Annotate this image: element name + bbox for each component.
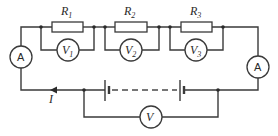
voltmeter-battery: V (82, 88, 220, 128)
bottom-wires: I (21, 68, 258, 106)
resistor-r2: R2 (115, 4, 147, 32)
ammeter-right: A (247, 56, 269, 78)
resistor-r3: R3 (181, 4, 212, 32)
svg-text:A: A (254, 61, 262, 73)
svg-text:A: A (17, 51, 25, 63)
battery (105, 80, 184, 101)
resistor-r1: R1 (52, 4, 83, 32)
circuit-diagram: R1 V1 R2 V2 R3 V3 A (0, 0, 278, 136)
ammeter-left: A (10, 46, 32, 68)
current-label: I (48, 92, 54, 106)
r1-label: R1 (60, 4, 72, 20)
r3-label: R3 (189, 4, 201, 20)
r2-label: R2 (123, 4, 135, 20)
